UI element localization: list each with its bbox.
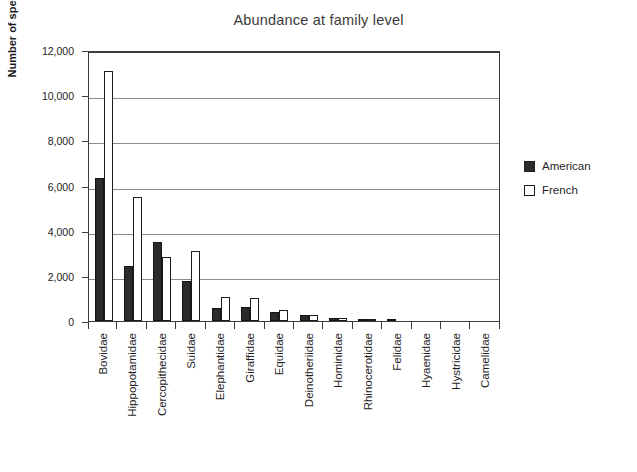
bar-french bbox=[338, 318, 347, 321]
legend-swatch-french bbox=[524, 185, 535, 196]
chart-title: Abundance at family level bbox=[0, 12, 637, 28]
bar-group bbox=[382, 53, 411, 321]
x-axis-label-cell: Equidae bbox=[265, 329, 294, 469]
bar-french bbox=[104, 71, 113, 321]
x-axis-labels: BovidaeHippopotamidaeCercopithecidaeSuid… bbox=[88, 329, 500, 469]
bar-group bbox=[89, 53, 118, 321]
x-axis-tick bbox=[235, 322, 264, 329]
y-axis-tick-label: 8,000 bbox=[48, 135, 74, 147]
x-axis-tick bbox=[117, 322, 146, 329]
bar-french bbox=[191, 251, 200, 321]
bar-group bbox=[411, 53, 440, 321]
x-axis-tick bbox=[206, 322, 235, 329]
bar-group bbox=[440, 53, 469, 321]
x-axis-tick bbox=[412, 322, 441, 329]
x-axis-label-cell: Felidae bbox=[382, 329, 411, 469]
bar-french bbox=[162, 257, 171, 321]
legend-label: American bbox=[542, 160, 591, 172]
x-axis-tick-label: Hippopotamidae bbox=[126, 333, 138, 417]
x-axis-label-cell: Suidae bbox=[176, 329, 205, 469]
bar-group bbox=[177, 53, 206, 321]
bar-group bbox=[353, 53, 382, 321]
bar-group bbox=[148, 53, 177, 321]
bar-series-container bbox=[89, 53, 499, 321]
bar-french bbox=[309, 315, 318, 321]
x-axis-label-cell: Rhinocerotidae bbox=[353, 329, 382, 469]
bar-american bbox=[329, 318, 338, 321]
bar-french bbox=[279, 310, 288, 321]
bar-american bbox=[153, 242, 162, 321]
bar-group bbox=[470, 53, 499, 321]
x-axis-tick bbox=[147, 322, 176, 329]
x-axis-label-cell: Cercopithecidae bbox=[147, 329, 176, 469]
y-axis-tick-label: 12,000 bbox=[42, 45, 74, 57]
bar-group bbox=[206, 53, 235, 321]
y-axis-tick-label: 10,000 bbox=[42, 90, 74, 102]
bar-american bbox=[182, 281, 191, 321]
x-axis-tick-label: Hyaenidae bbox=[420, 333, 432, 388]
x-axis-ticks bbox=[88, 322, 500, 329]
x-axis-tick-label: Equidae bbox=[273, 333, 285, 375]
x-axis-label-cell: Hippopotamidae bbox=[117, 329, 146, 469]
y-axis-tick-label: 4,000 bbox=[48, 226, 74, 238]
bar-group bbox=[235, 53, 264, 321]
x-axis-tick bbox=[353, 322, 382, 329]
bar-american bbox=[241, 307, 250, 321]
y-axis-tick-label: 2,000 bbox=[48, 271, 74, 283]
x-axis-tick-label: Hominidae bbox=[332, 333, 344, 388]
chart-legend: AmericanFrench bbox=[524, 160, 591, 208]
x-axis-tick bbox=[176, 322, 205, 329]
bar-chart: Abundance at family level Number of spec… bbox=[0, 0, 637, 472]
bar-group bbox=[323, 53, 352, 321]
legend-swatch-american bbox=[524, 161, 535, 172]
x-axis-tick-label: Elephantidae bbox=[214, 333, 226, 400]
bar-french bbox=[250, 298, 259, 321]
legend-item: American bbox=[524, 160, 591, 172]
bar-group bbox=[118, 53, 147, 321]
x-axis-label-cell: Giraffidae bbox=[235, 329, 264, 469]
x-axis-tick-label: Cercopithecidae bbox=[156, 333, 168, 416]
x-axis-tick-label: Rhinocerotidae bbox=[362, 333, 374, 410]
bar-american bbox=[387, 319, 396, 321]
bar-french bbox=[221, 297, 230, 321]
bar-french bbox=[133, 197, 142, 321]
bar-american bbox=[124, 266, 133, 321]
bar-french bbox=[367, 319, 376, 321]
x-axis-label-cell: Hyaenidae bbox=[412, 329, 441, 469]
legend-label: French bbox=[542, 184, 578, 196]
legend-item: French bbox=[524, 184, 591, 196]
x-axis-tick bbox=[323, 322, 352, 329]
bar-american bbox=[212, 308, 221, 321]
x-axis-tick bbox=[382, 322, 411, 329]
bar-group bbox=[265, 53, 294, 321]
x-axis-tick bbox=[470, 322, 499, 329]
plot-area bbox=[88, 51, 500, 322]
x-axis-tick-label: Giraffidae bbox=[244, 333, 256, 383]
bar-american bbox=[300, 315, 309, 321]
x-axis-label-cell: Elephantidae bbox=[206, 329, 235, 469]
x-axis-tick-label: Bovidae bbox=[97, 333, 109, 375]
bar-american bbox=[270, 312, 279, 321]
x-axis-label-cell: Hystricidae bbox=[441, 329, 470, 469]
y-axis: 02,0004,0006,0008,00010,00012,000 bbox=[0, 51, 88, 322]
x-axis-label-cell: Hominidae bbox=[323, 329, 352, 469]
x-axis-label-cell: Deinotheriidae bbox=[294, 329, 323, 469]
x-axis-tick-label: Deinotheriidae bbox=[303, 333, 315, 407]
bar-group bbox=[294, 53, 323, 321]
x-axis-tick bbox=[88, 322, 117, 329]
x-axis-tick-label: Camelidae bbox=[479, 333, 491, 388]
x-axis-tick-label: Felidae bbox=[391, 333, 403, 371]
bar-american bbox=[358, 319, 367, 321]
x-axis-label-cell: Camelidae bbox=[470, 329, 499, 469]
bar-american bbox=[95, 178, 104, 321]
x-axis-tick-label: Suidae bbox=[185, 333, 197, 369]
x-axis-tick bbox=[441, 322, 470, 329]
y-axis-tick-label: 6,000 bbox=[48, 181, 74, 193]
x-axis-tick-label: Hystricidae bbox=[450, 333, 462, 390]
x-axis-label-cell: Bovidae bbox=[88, 329, 117, 469]
x-axis-tick bbox=[294, 322, 323, 329]
x-axis-tick bbox=[265, 322, 294, 329]
y-axis-tick-label: 0 bbox=[68, 316, 74, 328]
